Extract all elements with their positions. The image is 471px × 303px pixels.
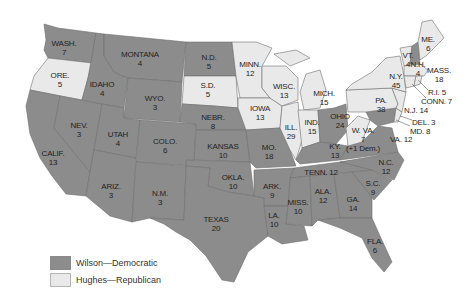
label-sd: S.D.5: [201, 81, 216, 99]
legend-item-republican: Hughes—Republican: [50, 271, 161, 288]
label-mo: MO.18: [262, 143, 277, 161]
label-ark: ARK.9: [263, 182, 281, 200]
label-ri: R.I. 5: [428, 88, 446, 97]
label-miss: MISS.10: [288, 198, 309, 216]
label-mich: MICH.15: [313, 89, 335, 107]
label-ill: ILL.29: [285, 123, 298, 141]
label-me: ME.6: [421, 35, 435, 53]
label-fla: FLA.6: [367, 237, 383, 255]
label-texas: TEXAS20: [203, 215, 228, 233]
label-minn: MINN.12: [239, 60, 261, 78]
label-nev: NEV.3: [70, 121, 87, 139]
label-wyo: WYO.3: [145, 94, 166, 112]
label-wash: WASH.7: [52, 39, 77, 57]
label-nh: N.H.4: [410, 60, 425, 78]
label-kansas: KANSAS10: [207, 142, 238, 160]
legend-item-democratic: Wilson—Democratic: [50, 254, 161, 271]
label-md: MD. 8: [410, 127, 430, 136]
state-pa[interactable]: [346, 88, 398, 112]
label-del: DEL. 3: [412, 118, 435, 127]
label-ind: IND.15: [304, 118, 319, 136]
label-conn: CONN. 7: [421, 97, 452, 106]
label-utah: UTAH4: [108, 130, 128, 148]
label-wisc: WISC.13: [273, 82, 295, 100]
label-nc: N.C.12: [378, 158, 393, 176]
label-la: LA.10: [268, 211, 279, 229]
label-ny: N.Y.45: [389, 72, 403, 90]
label-tenn: TENN. 12: [304, 168, 338, 177]
label-wva: W. VA.7(+1 Dem.): [346, 126, 380, 153]
label-nebr: NEBR.8: [201, 113, 224, 131]
label-ala: ALA.12: [315, 187, 332, 205]
legend-label-republican: Hughes—Republican: [76, 275, 161, 285]
label-mass: MASS.18: [427, 66, 451, 84]
legend: Wilson—Democratic Hughes—Republican: [50, 254, 161, 288]
label-idaho: IDAHO4: [90, 80, 114, 98]
label-okla: OKLA.10: [222, 173, 245, 191]
label-va: VA. 12: [390, 135, 412, 144]
label-ore: ORE.5: [51, 71, 70, 89]
label-nd: N.D.5: [201, 53, 216, 71]
label-ariz: ARIZ.3: [101, 182, 120, 200]
label-sc: S.C.9: [366, 179, 381, 197]
label-colo: COLO.6: [153, 137, 177, 155]
label-ky: KY.13: [329, 142, 340, 160]
legend-label-democratic: Wilson—Democratic: [76, 258, 158, 268]
label-nj: N.J. 14: [404, 106, 428, 115]
label-pa: PA.38: [375, 96, 387, 114]
swatch-democratic: [50, 256, 71, 270]
label-nm: N.M.3: [152, 189, 168, 207]
swatch-republican: [50, 273, 71, 287]
label-ga: GA.14: [346, 195, 359, 213]
state-mich-upper[interactable]: [274, 50, 310, 66]
label-montana: MONTANA4: [121, 50, 159, 68]
label-iowa: IOWA13: [250, 104, 270, 122]
label-calif: CALIF.13: [42, 149, 65, 167]
